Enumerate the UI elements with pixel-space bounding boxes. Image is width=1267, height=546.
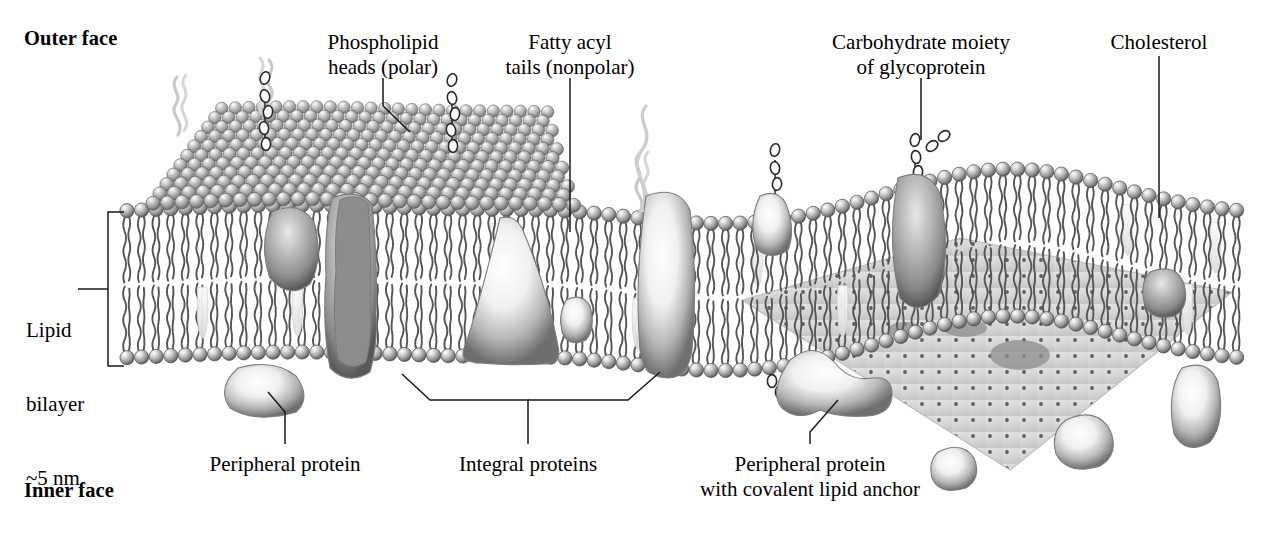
label-lipid-anchor: Peripheral proteinwith covalent lipid an… <box>700 452 920 502</box>
label-integral-proteins: Integral proteins <box>459 452 597 477</box>
scale-line-3: ~5 nm <box>26 466 84 491</box>
label-line-1: Peripheral protein <box>700 452 920 477</box>
lipid-bilayer-scale-label: Lipid bilayer ~5 nm <box>26 268 84 516</box>
membrane-diagram <box>0 0 1267 546</box>
label-line-2: of glycoprotein <box>832 55 1010 80</box>
label-line-1: Fatty acyl <box>506 30 635 55</box>
label-peripheral-protein: Peripheral protein <box>209 452 360 477</box>
label-cholesterol: Cholesterol <box>1111 30 1208 55</box>
label-carbohydrate-moiety: Carbohydrate moietyof glycoprotein <box>832 30 1010 80</box>
label-line-2: heads (polar) <box>328 55 439 80</box>
label-line-1: Integral proteins <box>459 452 597 477</box>
label-line-1: Phospholipid <box>328 30 439 55</box>
label-line-2: tails (nonpolar) <box>506 55 635 80</box>
label-fatty-acyl-tails: Fatty acyltails (nonpolar) <box>506 30 635 80</box>
scale-line-2: bilayer <box>26 392 84 417</box>
label-line-1: Carbohydrate moiety <box>832 30 1010 55</box>
label-phospholipid-heads: Phospholipidheads (polar) <box>328 30 439 80</box>
figure-canvas: Outer face Inner face Lipid bilayer ~5 n… <box>0 0 1267 546</box>
scale-line-1: Lipid <box>26 318 84 343</box>
label-line-1: Peripheral protein <box>209 452 360 477</box>
outer-face-label: Outer face <box>24 26 117 50</box>
label-line-2: with covalent lipid anchor <box>700 477 920 502</box>
label-line-1: Cholesterol <box>1111 30 1208 55</box>
